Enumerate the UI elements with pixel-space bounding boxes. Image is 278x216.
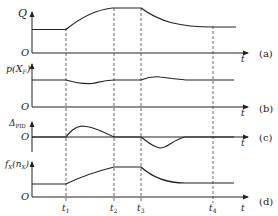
- curve-p: [32, 77, 234, 84]
- time-labels: t1 t2 t3 t4: [62, 203, 217, 214]
- panel-b: p(XF) O t (b): [6, 63, 273, 118]
- time-marker-lines: [66, 8, 213, 203]
- xlabel-b: t: [241, 108, 245, 118]
- curve-delta-pid: [32, 126, 234, 148]
- timing-diagram: Q O t (a) p(XF) O t (b) ΔPID O t (c) fX(…: [0, 0, 278, 216]
- curve-fx: [32, 167, 234, 184]
- curve-q: [32, 8, 236, 30]
- panel-c: ΔPID O t (c): [8, 118, 273, 152]
- origin-c: O: [21, 131, 29, 142]
- t3-label: t3: [137, 203, 145, 214]
- ylabel-delta-pid: ΔPID: [8, 118, 26, 129]
- panel-tag-a: (a): [259, 48, 273, 59]
- xlabel-c: t: [241, 138, 245, 148]
- origin-a: O: [21, 47, 29, 58]
- panel-tag-b: (b): [259, 103, 273, 114]
- origin-b: O: [21, 101, 29, 112]
- t4-label: t4: [209, 203, 217, 214]
- t1-label: t1: [62, 203, 69, 214]
- panel-tag-c: (c): [259, 132, 273, 143]
- xlabel-a: t: [241, 54, 245, 64]
- panel-tag-d: (d): [259, 196, 273, 207]
- xlabel-d: t: [241, 203, 245, 213]
- ylabel-p: p(XF): [6, 63, 31, 75]
- t2-label: t2: [110, 203, 118, 214]
- ylabel-q: Q: [18, 7, 27, 20]
- panel-a: Q O t (a): [18, 7, 273, 64]
- ylabel-fx: fX(nX): [4, 159, 30, 170]
- origin-d: O: [21, 191, 29, 202]
